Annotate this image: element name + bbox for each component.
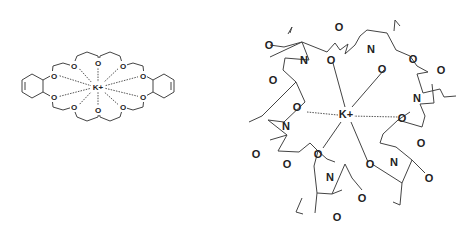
svg-text:O: O — [409, 53, 418, 65]
svg-text:O: O — [71, 103, 77, 112]
crown-ether-complex: O O O O O O O O O O K+ — [22, 52, 174, 121]
svg-text:O: O — [269, 74, 278, 86]
svg-text:O: O — [378, 63, 387, 75]
svg-text:O: O — [437, 64, 446, 76]
svg-text:N: N — [390, 156, 398, 168]
structures-canvas: O O O O O O O O O O K+ — [0, 0, 472, 233]
svg-text:O: O — [425, 172, 434, 184]
svg-text:O: O — [95, 59, 101, 68]
svg-text:O: O — [417, 137, 426, 149]
svg-text:O: O — [327, 54, 336, 66]
svg-text:O: O — [398, 112, 407, 124]
svg-text:N: N — [282, 120, 290, 132]
svg-text:O: O — [252, 148, 261, 160]
svg-text:O: O — [333, 211, 342, 223]
svg-text:O: O — [51, 72, 57, 81]
svg-text:O: O — [335, 21, 344, 33]
svg-text:N: N — [326, 171, 334, 183]
svg-text:O: O — [120, 103, 126, 112]
svg-text:O: O — [358, 192, 367, 204]
svg-text:O: O — [140, 72, 146, 81]
svg-text:O: O — [283, 158, 292, 170]
svg-text:O: O — [71, 62, 77, 71]
svg-text:O: O — [293, 101, 302, 113]
svg-text:O: O — [265, 39, 274, 51]
svg-text:K+: K+ — [339, 108, 353, 120]
svg-text:O: O — [140, 93, 146, 102]
svg-text:K+: K+ — [93, 83, 104, 92]
svg-text:O: O — [51, 93, 57, 102]
svg-text:O: O — [314, 148, 323, 160]
valinomycin-complex: K+ O N O N O O O O O N O O N O O O O O N… — [249, 20, 456, 223]
svg-text:N: N — [413, 92, 421, 104]
svg-text:N: N — [367, 43, 375, 55]
svg-text:O: O — [95, 106, 101, 115]
svg-text:O: O — [120, 62, 126, 71]
svg-text:O: O — [366, 158, 375, 170]
svg-text:N: N — [300, 54, 308, 66]
